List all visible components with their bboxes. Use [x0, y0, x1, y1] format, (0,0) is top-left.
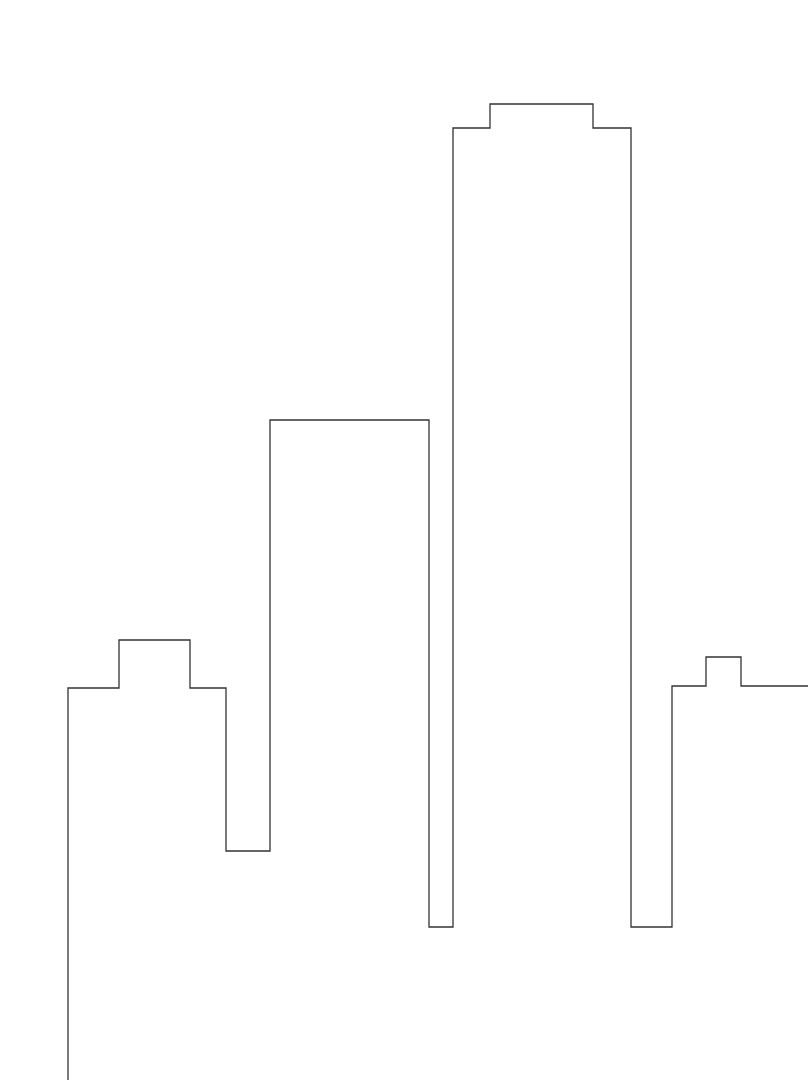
skyline-outline-line: [68, 104, 808, 1080]
skyline-drawing: [0, 0, 811, 1086]
